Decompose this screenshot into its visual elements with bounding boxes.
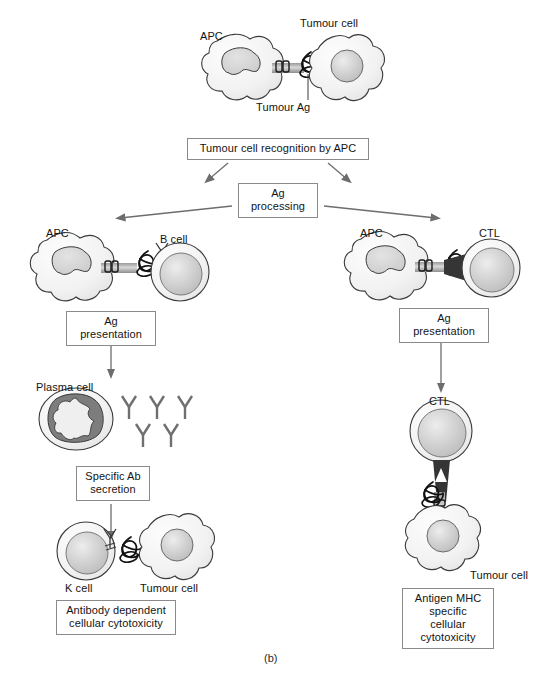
arrow-icon — [208, 163, 228, 180]
apc-cell-icon — [202, 34, 283, 100]
label-tumour-ag: Tumour Ag — [256, 101, 310, 113]
label-plasma-cell: Plasma cell — [36, 381, 93, 393]
antibody-icon — [122, 396, 192, 419]
label-tumour-cell-bot-right: Tumour cell — [470, 569, 528, 581]
label-apc-right: APC — [360, 227, 383, 239]
label-tumour-cell-bot-left: Tumour cell — [140, 582, 198, 594]
b-cell-icon — [151, 243, 209, 301]
ctl-cell-icon — [410, 400, 472, 462]
box-antibody-dependent-cellular-cytotoxicity: Antibody dependent cellular cytotoxicity — [56, 600, 176, 635]
ctl-cell-icon — [462, 239, 520, 297]
box-tumour-cell-recognition: Tumour cell recognition by APC — [187, 138, 369, 160]
k-cell-icon — [57, 522, 115, 580]
arrow-icon — [324, 206, 436, 218]
label-apc-left: APC — [46, 227, 69, 239]
label-ctl-mid-right: CTL — [429, 395, 450, 407]
box-antigen-mhc-specific-cellular-cytotoxicity: Antigen MHC specific cellular cytotoxici… — [402, 588, 494, 649]
label-tumour-cell-top: Tumour cell — [300, 17, 358, 29]
antibody-icon — [136, 424, 178, 447]
box-ag-presentation-right: Ag presentation — [399, 308, 489, 343]
tumour-cell-icon — [309, 35, 384, 101]
box-ag-processing: Ag processing — [238, 183, 318, 218]
box-specific-ab-secretion: Specific Ab secretion — [76, 466, 150, 501]
immunology-figure: Tumour cell recognition by APC Ag proces… — [0, 0, 554, 679]
box-ag-presentation-left: Ag presentation — [66, 311, 156, 346]
plasma-cell-icon — [39, 388, 113, 450]
figure-caption: (b) — [264, 652, 277, 664]
tumour-cell-icon — [139, 514, 214, 580]
label-b-cell: B cell — [160, 233, 188, 245]
label-apc-top: APC — [200, 30, 223, 42]
tumour-antigen-icon — [119, 537, 141, 564]
arrow-icon — [120, 206, 232, 218]
label-k-cell: K cell — [65, 582, 93, 594]
label-ctl-top-right: CTL — [479, 227, 500, 239]
arrow-icon — [328, 163, 348, 180]
tumour-cell-icon — [405, 505, 480, 571]
